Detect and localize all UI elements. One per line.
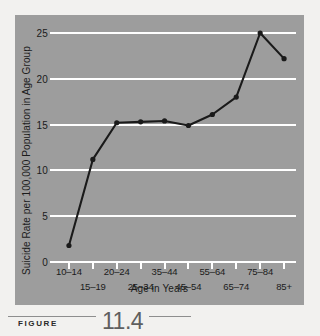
y-axis-tick-label: 15 xyxy=(36,119,48,130)
y-axis-tick xyxy=(50,124,57,126)
caption-number: 11.4 xyxy=(96,308,149,335)
y-axis-tick-label: 0 xyxy=(42,257,48,268)
y-axis-tick-label: 25 xyxy=(36,28,48,39)
data-point xyxy=(210,112,215,117)
y-axis-title-text: Suicide Rate per 100,000 Population in A… xyxy=(21,46,32,275)
data-point xyxy=(138,119,143,124)
y-axis-tick xyxy=(50,261,57,263)
y-axis-tick-label: 20 xyxy=(36,73,48,84)
x-axis-tick-label: 20–24 xyxy=(104,266,130,277)
x-axis-tick xyxy=(140,262,142,269)
data-point xyxy=(186,123,191,128)
x-axis-title: Age in Years xyxy=(15,283,304,294)
y-axis-tick xyxy=(50,32,57,34)
data-point xyxy=(258,30,263,35)
data-point xyxy=(234,95,239,100)
x-axis-tick xyxy=(283,262,285,269)
data-point xyxy=(114,120,119,125)
y-axis-tick-label: 10 xyxy=(36,165,48,176)
data-point xyxy=(162,118,167,123)
series-markers xyxy=(66,30,286,248)
series-line-chart xyxy=(57,33,296,262)
x-axis-tick-label: 55–64 xyxy=(199,266,225,277)
data-point xyxy=(90,157,95,162)
figure-caption: FIGURE 11.4 xyxy=(0,307,320,336)
x-axis-tick-label: 10–14 xyxy=(56,266,82,277)
data-point xyxy=(66,243,71,248)
x-axis-tick xyxy=(235,262,237,269)
plot-area: 0510152025 10–1415–1920–2425–3435–4445–5… xyxy=(57,33,296,262)
y-axis-title: Suicide Rate per 100,000 Population in A… xyxy=(19,15,33,305)
data-point xyxy=(281,56,286,61)
x-axis-tick xyxy=(187,262,189,269)
y-axis-tick xyxy=(50,78,57,80)
x-axis-tick-label: 75–84 xyxy=(247,266,273,277)
x-axis-tick-label: 35–44 xyxy=(152,266,178,277)
series-polyline xyxy=(69,33,284,246)
y-axis-tick xyxy=(50,169,57,171)
y-axis-tick-label: 5 xyxy=(42,211,48,222)
x-axis-title-text: Age in Years xyxy=(131,283,188,294)
figure-container: 0510152025 10–1415–1920–2425–3435–4445–5… xyxy=(0,0,320,336)
y-axis-tick xyxy=(50,215,57,217)
chart-panel: 0510152025 10–1415–1920–2425–3435–4445–5… xyxy=(15,15,304,305)
caption-label: FIGURE xyxy=(18,319,62,328)
x-axis-tick xyxy=(92,262,94,269)
